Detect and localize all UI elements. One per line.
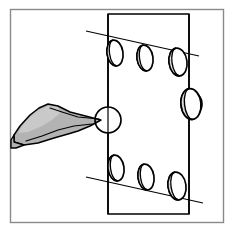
figure-container: Technical line drawing of a notched plat…: [0, 0, 233, 232]
technical-drawing-canvas: [0, 0, 233, 232]
